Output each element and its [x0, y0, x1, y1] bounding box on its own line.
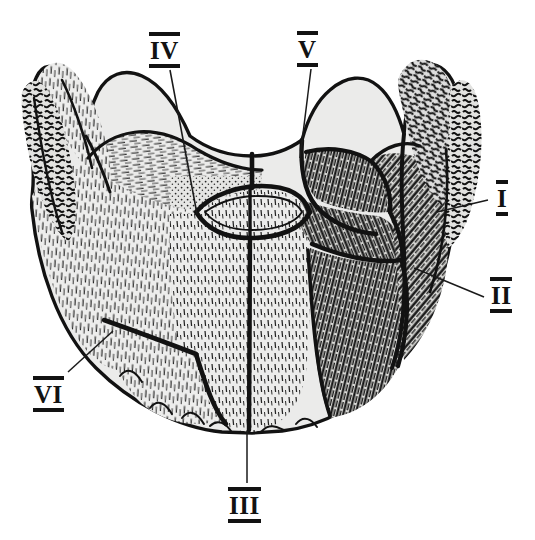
symphysis-lower: [249, 238, 250, 430]
label-roman-IV: IV: [149, 32, 180, 68]
label-roman-V: V: [297, 31, 318, 67]
label-roman-III: III: [228, 487, 261, 523]
label-roman-I: I: [496, 180, 508, 216]
bone-illustration: [0, 0, 535, 540]
label-roman-II: II: [490, 277, 512, 313]
label-roman-VI: VI: [33, 376, 64, 412]
anatomical-figure: I II III IV V VI: [0, 0, 535, 540]
